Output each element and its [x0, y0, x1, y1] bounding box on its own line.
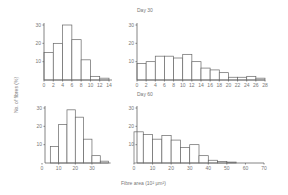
histogram-bar [146, 62, 155, 80]
x-tick-label: 8 [80, 82, 83, 88]
y-tick-label: 20 [35, 40, 41, 46]
x-tick-label: 24 [244, 82, 250, 88]
histogram-bar [190, 145, 199, 163]
histogram-figure: 1020300246810121410203002468101214161820… [0, 0, 288, 195]
x-tick-label: 20 [226, 82, 232, 88]
histogram-bar [208, 160, 217, 163]
y-tick-label: 30 [35, 22, 41, 28]
y-tick-label: 20 [128, 40, 134, 46]
y-tick-label: 10 [128, 58, 134, 64]
panel-title: Day 30 [137, 7, 153, 13]
x-tick-label: 0 [43, 82, 46, 88]
y-tick-label: 30 [128, 22, 134, 28]
histogram-bar [162, 136, 171, 164]
histogram-bar [192, 62, 201, 80]
histogram-bar [134, 132, 143, 163]
histogram-bar [50, 147, 58, 164]
x-tick-label: 20 [73, 165, 79, 171]
panel-top-left: 10203002468101214 [35, 22, 112, 88]
histogram-bar [92, 156, 100, 163]
x-tick-label: 6 [163, 82, 166, 88]
y-tick-label: 30 [128, 105, 134, 111]
histogram-bar [174, 58, 183, 80]
panel-bottom-left: 1020300102030 [36, 105, 110, 171]
histogram-bar [81, 60, 90, 80]
x-tick-label: 12 [97, 82, 103, 88]
histogram-bar [90, 76, 99, 80]
y-tick-label: 30 [36, 105, 42, 111]
histogram-bar [84, 139, 92, 163]
histogram-bar [72, 40, 81, 80]
panel-day-60: 102030010203040506070Day 60 [128, 91, 267, 171]
histogram-bar [219, 73, 228, 80]
x-tick-label: 14 [198, 82, 204, 88]
histogram-bar [201, 68, 210, 80]
x-tick-label: 16 [207, 82, 213, 88]
histogram-bar [53, 43, 62, 80]
x-tick-label: 14 [106, 82, 112, 88]
y-tick-label: 10 [35, 58, 41, 64]
x-tick-label: 10 [56, 165, 62, 171]
histogram-bar [238, 77, 247, 80]
x-tick-label: 20 [168, 165, 174, 171]
x-tick-label: 2 [145, 82, 148, 88]
histogram-bar [59, 125, 67, 164]
histogram-bar [247, 76, 256, 80]
x-tick-label: 60 [243, 165, 249, 171]
y-tick-label: 20 [128, 123, 134, 129]
x-tick-label: 6 [70, 82, 73, 88]
x-tick-label: 30 [89, 165, 95, 171]
x-tick-label: 0 [136, 82, 139, 88]
x-tick-label: 12 [189, 82, 195, 88]
x-tick-label: 50 [224, 165, 230, 171]
x-tick-label: 26 [253, 82, 259, 88]
y-tick-label: 10 [36, 141, 42, 147]
histogram-bar [199, 156, 208, 163]
histogram-bar [171, 140, 180, 163]
panel-day-30: 1020300246810121416182022242628Day 30 [128, 7, 268, 88]
histogram-bar [153, 139, 162, 163]
histogram-bar [143, 135, 152, 163]
histogram-bar [75, 117, 83, 163]
x-axis-label: Fibre area (10² μm²) [121, 180, 166, 186]
x-tick-label: 28 [262, 82, 268, 88]
y-axis-label: No. of fibres (%) [13, 65, 19, 125]
histogram-bar [164, 56, 173, 80]
histogram-bar [180, 147, 189, 163]
histogram-bar [137, 64, 146, 81]
histogram-bar [228, 77, 237, 80]
histogram-bar [210, 70, 219, 80]
x-tick-label: 10 [180, 82, 186, 88]
x-tick-label: 10 [150, 165, 156, 171]
histogram-bar [67, 110, 75, 163]
x-tick-label: 4 [154, 82, 157, 88]
x-tick-label: 0 [41, 165, 44, 171]
x-tick-label: 8 [172, 82, 175, 88]
histogram-bar [63, 25, 72, 80]
x-tick-label: 10 [88, 82, 94, 88]
x-tick-label: 0 [133, 165, 136, 171]
y-tick-label: 10 [128, 141, 134, 147]
histogram-bar [183, 54, 192, 80]
x-tick-label: 40 [206, 165, 212, 171]
histogram-bar [44, 53, 53, 81]
panel-title: Day 60 [137, 91, 153, 97]
x-tick-label: 70 [261, 165, 267, 171]
x-tick-label: 2 [52, 82, 55, 88]
histogram-bar [155, 56, 164, 80]
y-tick-label: 20 [36, 123, 42, 129]
x-tick-label: 30 [187, 165, 193, 171]
x-tick-label: 4 [61, 82, 64, 88]
x-tick-label: 18 [217, 82, 223, 88]
x-tick-label: 22 [235, 82, 241, 88]
